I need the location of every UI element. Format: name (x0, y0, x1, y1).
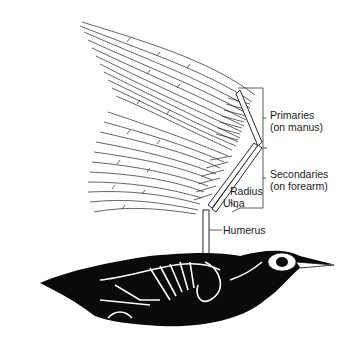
secondaries-label-line1: Secondaries (270, 168, 328, 180)
primaries-label-line1: Primaries (270, 109, 323, 121)
radius-label: Radius (230, 185, 263, 197)
bird-body (40, 251, 334, 327)
secondaries-label-line2: (on forearm) (270, 180, 328, 192)
humerus-label: Humerus (223, 224, 266, 236)
ulna-label: Ulna (223, 197, 245, 209)
secondaries-label: Secondaries (on forearm) (270, 168, 328, 192)
primaries-label-line2: (on manus) (270, 121, 323, 133)
wing-anatomy-figure: Primaries (on manus) Secondaries (on for… (0, 0, 344, 340)
primaries-label: Primaries (on manus) (270, 109, 323, 133)
